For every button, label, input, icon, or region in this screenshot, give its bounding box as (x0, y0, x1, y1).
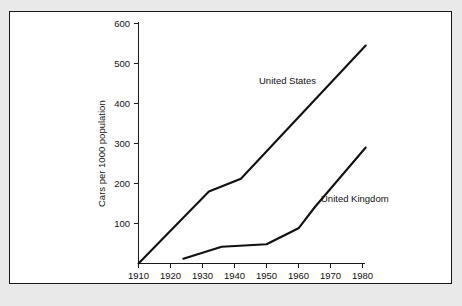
y-tick-label-200: 200 (114, 178, 130, 189)
x-tick-label-1980: 1980 (352, 270, 373, 281)
y-tick-label-500: 500 (114, 58, 130, 69)
y-tick-group: 600 500 400 300 200 100 (114, 18, 138, 229)
x-tick-label-1960: 1960 (288, 270, 309, 281)
figure-frame: Cars per 1000 population 600 500 400 300… (9, 11, 452, 284)
chart-page: Cars per 1000 population 600 500 400 300… (0, 0, 462, 306)
x-tick-label-1950: 1950 (256, 270, 277, 281)
y-tick-label-300: 300 (114, 138, 130, 149)
line-chart: Cars per 1000 population 600 500 400 300… (10, 12, 451, 283)
x-tick-label-1920: 1920 (160, 270, 181, 281)
y-tick-label-600: 600 (114, 18, 130, 29)
x-tick-label-1940: 1940 (224, 270, 245, 281)
y-tick-label-400: 400 (114, 98, 130, 109)
series-label-united-states: United States (259, 75, 316, 86)
series-line-united-states (139, 46, 366, 264)
x-tick-label-1930: 1930 (192, 270, 213, 281)
series-label-united-kingdom: United Kingdom (321, 193, 389, 204)
x-tick-group: 1910 1920 1930 1940 1950 1960 1970 1980 (128, 264, 373, 282)
y-tick-label-100: 100 (114, 218, 130, 229)
x-tick-label-1970: 1970 (320, 270, 341, 281)
x-tick-label-1910: 1910 (128, 270, 149, 281)
y-axis-title: Cars per 1000 population (96, 100, 107, 207)
